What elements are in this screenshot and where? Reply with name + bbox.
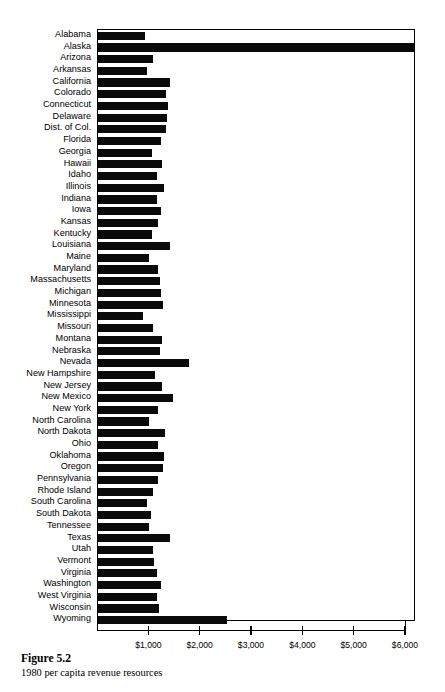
bar xyxy=(98,277,160,285)
category-label: Pennsylvania xyxy=(37,473,91,485)
bar xyxy=(98,441,158,449)
bar xyxy=(98,336,162,344)
category-label: Georgia xyxy=(59,146,91,158)
bar xyxy=(98,114,167,122)
x-axis-tick-label: $5,000 xyxy=(341,640,367,650)
x-axis-tick xyxy=(353,626,355,636)
bar xyxy=(98,230,152,238)
bar xyxy=(98,149,152,157)
category-label: Alabama xyxy=(55,29,91,41)
category-label: West Virginia xyxy=(38,590,91,602)
category-label: Oregon xyxy=(61,461,91,473)
x-axis-tick xyxy=(199,626,201,636)
category-label: North Dakota xyxy=(37,426,91,438)
category-label: Hawaii xyxy=(64,158,91,170)
category-label: Nevada xyxy=(60,356,91,368)
category-label: New Hampshire xyxy=(26,368,91,380)
category-label: Rhode Island xyxy=(37,485,91,497)
bar xyxy=(98,371,155,379)
figure-caption-title: Figure 5.2 xyxy=(21,652,351,665)
category-label: Arizona xyxy=(60,52,91,64)
figure-5-2: AlabamaAlaskaArizonaArkansasCaliforniaCo… xyxy=(0,0,445,692)
bar xyxy=(98,347,160,355)
x-axis-tick xyxy=(404,626,406,636)
bar xyxy=(98,125,166,133)
bar xyxy=(98,289,161,297)
x-axis-tick-label: $3,000 xyxy=(238,640,264,650)
category-label: Tennessee xyxy=(47,520,91,532)
bar xyxy=(98,616,227,624)
category-label: Indiana xyxy=(61,193,91,205)
bar xyxy=(98,488,153,496)
bar xyxy=(98,429,165,437)
bar xyxy=(98,67,147,75)
category-label: Virginia xyxy=(61,567,91,579)
bar xyxy=(98,569,157,577)
bar xyxy=(98,546,153,554)
category-label: Idaho xyxy=(68,169,91,181)
bar xyxy=(98,312,143,320)
chart-plot-wrapper: AlabamaAlaskaArizonaArkansasCaliforniaCo… xyxy=(0,24,445,634)
bar xyxy=(98,394,173,402)
category-label: Delaware xyxy=(53,111,91,123)
x-axis-left-cap xyxy=(97,621,98,631)
category-label: Texas xyxy=(67,532,91,544)
bar xyxy=(98,324,153,332)
bar xyxy=(98,90,166,98)
bar xyxy=(98,137,161,145)
bar xyxy=(98,476,158,484)
category-label: New Mexico xyxy=(41,391,91,403)
figure-caption-subtitle: 1980 per capita revenue resources xyxy=(21,666,351,679)
category-label: Iowa xyxy=(72,204,91,216)
bar xyxy=(98,511,151,519)
bar xyxy=(98,160,162,168)
category-axis-labels: AlabamaAlaskaArizonaArkansasCaliforniaCo… xyxy=(0,24,96,620)
category-label: South Dakota xyxy=(36,508,91,520)
bar xyxy=(98,406,158,414)
bar xyxy=(98,301,163,309)
bar xyxy=(98,254,149,262)
bar xyxy=(98,382,162,390)
x-axis-tick xyxy=(148,626,150,636)
bar xyxy=(98,534,170,542)
bar xyxy=(98,195,157,203)
bar xyxy=(98,265,158,273)
category-label: Montana xyxy=(56,333,91,345)
category-label: Minnesota xyxy=(49,298,91,310)
x-axis-tick-label: $4,000 xyxy=(289,640,315,650)
bar xyxy=(98,464,163,472)
bar xyxy=(98,78,170,86)
plot-area xyxy=(97,29,415,621)
bar xyxy=(98,604,159,612)
category-label: Florida xyxy=(63,134,91,146)
category-label: Massachusetts xyxy=(30,274,91,286)
bar xyxy=(98,207,161,215)
bar xyxy=(98,184,164,192)
bar xyxy=(98,593,157,601)
bar xyxy=(98,359,189,367)
bar xyxy=(98,242,170,250)
x-axis-tick xyxy=(302,626,304,636)
bar xyxy=(98,172,157,180)
x-axis-tick xyxy=(250,626,252,636)
category-label: Washington xyxy=(43,578,91,590)
category-label: Kentucky xyxy=(54,228,91,240)
bar xyxy=(98,219,158,227)
category-label: Maine xyxy=(66,251,91,263)
bar xyxy=(98,32,145,40)
x-axis-tick-label: $6,000 xyxy=(392,640,418,650)
category-label: Missouri xyxy=(57,321,91,333)
category-label: Mississippi xyxy=(47,309,91,321)
bar xyxy=(98,558,154,566)
bar xyxy=(98,581,161,589)
category-label: Illinois xyxy=(66,181,91,193)
bar xyxy=(98,55,153,63)
category-label: South Carolina xyxy=(31,496,91,508)
category-label: Connecticut xyxy=(43,99,91,111)
bar xyxy=(98,499,147,507)
category-label: Kansas xyxy=(61,216,91,228)
category-label: North Carolina xyxy=(32,415,91,427)
category-label: New Jersey xyxy=(43,380,91,392)
bar xyxy=(98,102,168,110)
category-label: Dist. of Col. xyxy=(44,122,91,134)
